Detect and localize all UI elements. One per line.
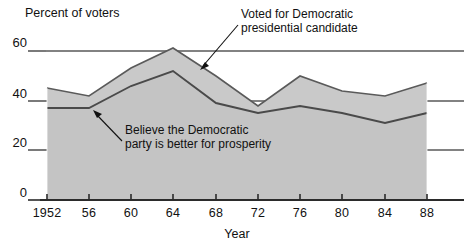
x-axis-label-76: 76 [293, 206, 307, 220]
voted-annotation-line2: presidential candidate [241, 21, 358, 35]
x-axis-label-56: 56 [82, 206, 96, 220]
voter-percent-area-chart: 60 40 20 0 Percent of voters 1952 56 60 … [0, 0, 471, 249]
y-axis-header: Percent of voters [25, 6, 120, 20]
x-axis-label-64: 64 [166, 206, 180, 220]
x-axis-label-84: 84 [378, 206, 392, 220]
believe-annotation-line1: Believe the Democratic [125, 123, 248, 137]
x-axis-label-60: 60 [124, 206, 138, 220]
believe-annotation-line2: party is better for prosperity [125, 137, 271, 151]
y-axis-label-40: 40 [13, 86, 27, 101]
x-axis-label-68: 68 [209, 206, 223, 220]
voted-annotation-line1: Voted for Democratic [241, 7, 353, 21]
x-axis-label-72: 72 [251, 206, 265, 220]
chart-figure: 60 40 20 0 Percent of voters 1952 56 60 … [0, 0, 471, 249]
y-axis-label-20: 20 [13, 135, 27, 150]
x-axis-label-88: 88 [420, 206, 434, 220]
y-axis-label-60: 60 [13, 35, 27, 50]
x-axis-label-80: 80 [335, 206, 349, 220]
x-axis-label-1952: 1952 [33, 206, 62, 220]
x-axis-title: Year [224, 227, 249, 241]
y-axis-label-0: 0 [20, 185, 27, 200]
